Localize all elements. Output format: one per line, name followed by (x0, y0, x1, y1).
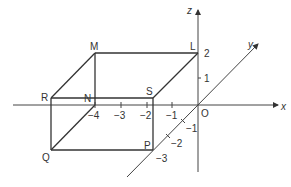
z-tick-label: 1 (204, 73, 210, 84)
point-label-s: S (146, 86, 153, 97)
x-tick-label: −3 (114, 110, 126, 121)
point-label-q: Q (42, 152, 50, 163)
x-axis-label: x (280, 101, 287, 112)
point-label-p: P (144, 140, 151, 151)
z-tick-label: 2 (204, 48, 210, 59)
cuboid (51, 53, 198, 150)
point-label-r: R (41, 92, 48, 103)
y-tick-label: −1 (186, 123, 198, 134)
y-tick-label: −3 (156, 153, 168, 164)
z-axis-label: z (186, 5, 192, 16)
point-label-m: M (90, 41, 98, 52)
point-label-l: L (190, 41, 196, 52)
origin-label: O (201, 108, 209, 119)
coordinate-diagram: −4 −3 −2 −1 −1 −2 −3 1 2 x y z O M L R N… (0, 0, 291, 187)
x-tick-label: −4 (88, 110, 100, 121)
y-axis-label: y (247, 39, 254, 50)
x-tick-label: −2 (140, 110, 152, 121)
x-tick-label: −1 (166, 110, 178, 121)
point-label-n: N (84, 93, 91, 104)
y-tick-label: −2 (171, 138, 183, 149)
